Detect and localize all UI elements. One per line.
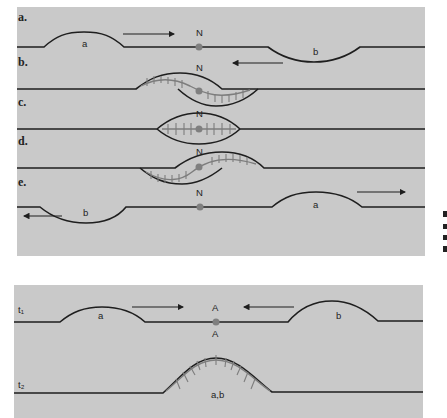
- upper-panel-background: [17, 7, 425, 256]
- origin-label-n: N: [196, 62, 203, 73]
- time-label-t1: t₁: [18, 304, 24, 315]
- row-label-d: d.: [18, 134, 28, 148]
- bubble-label-a: a: [98, 310, 104, 321]
- bubble-label-a: a: [313, 199, 319, 210]
- origin-dot: [196, 164, 203, 171]
- row-label-b: b.: [18, 55, 28, 69]
- origin-dot: [197, 204, 204, 211]
- time-label-t2: t₂: [18, 379, 25, 390]
- origin-label-n: N: [196, 187, 203, 198]
- bubble-label-a: a: [82, 38, 88, 49]
- site-label-a-bottom: A: [212, 328, 219, 339]
- cropped-caption: [443, 211, 447, 252]
- row-label-a: a.: [18, 10, 27, 24]
- origin-dot: [196, 88, 203, 95]
- site-label-a-top: A: [212, 302, 219, 313]
- replication-diagram: a. a b N b. N: [0, 0, 447, 418]
- origin-dot: [196, 126, 203, 133]
- origin-dot: [196, 44, 203, 51]
- lower-panel: t₁ a b A A t₂: [14, 285, 423, 418]
- row-label-c: c.: [18, 95, 26, 109]
- bubble-label-b: b: [83, 207, 88, 218]
- row-label-e: e.: [18, 175, 26, 189]
- upper-panel: a. a b N b. N: [17, 7, 425, 256]
- bubble-label-b: b: [336, 310, 341, 321]
- origin-label-n: N: [196, 27, 203, 38]
- site-dot: [213, 319, 220, 326]
- merged-bubble-label: a,b: [211, 389, 224, 400]
- bubble-label-b: b: [313, 46, 318, 57]
